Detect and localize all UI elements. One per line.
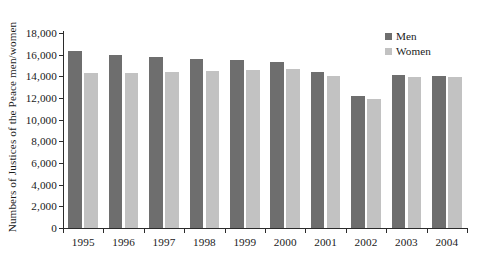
bar-women-2002 <box>367 99 381 228</box>
bar-men-1996 <box>109 55 123 228</box>
x-axis-tick-label-2002: 2002 <box>355 236 378 248</box>
legend-swatch-women-icon <box>385 48 392 55</box>
x-axis-tick-mark <box>305 228 306 233</box>
y-axis-tick-mark <box>59 98 63 99</box>
x-axis-tick-mark <box>265 228 266 233</box>
x-axis-tick-mark <box>103 228 104 233</box>
legend-swatch-men-icon <box>385 33 392 40</box>
bar-chart-figure: Numbers of Justices of the Peace men/wom… <box>0 0 485 275</box>
bar-women-1996 <box>125 73 139 228</box>
bar-women-2001 <box>327 76 341 228</box>
x-axis-tick-label-2001: 2001 <box>314 236 337 248</box>
bar-women-2004 <box>448 77 462 228</box>
bar-men-2001 <box>311 72 325 228</box>
legend-label-men: Men <box>396 29 417 43</box>
bar-women-2000 <box>286 69 300 228</box>
x-axis-tick-label-2003: 2003 <box>395 236 418 248</box>
bar-men-2004 <box>432 76 446 228</box>
legend-label-women: Women <box>396 44 431 58</box>
legend-item-women: Women <box>385 44 431 58</box>
y-axis-tick-label: 0 <box>51 222 57 234</box>
bar-men-1998 <box>190 59 204 228</box>
bar-men-2003 <box>392 75 406 228</box>
x-axis-tick-mark <box>467 228 468 233</box>
y-axis-tick-label: 4,000 <box>31 179 57 191</box>
y-axis-tick-label: 10,000 <box>26 114 57 126</box>
bar-women-2003 <box>408 77 422 228</box>
y-axis-tick-mark <box>59 76 63 77</box>
x-axis-tick-mark <box>386 228 387 233</box>
y-axis-tick-label: 6,000 <box>31 157 57 169</box>
y-axis-tick-label: 16,000 <box>26 49 57 61</box>
y-axis-tick-mark <box>59 185 63 186</box>
y-axis-tick-label: 14,000 <box>26 70 57 82</box>
x-axis-tick-label-2004: 2004 <box>435 236 458 248</box>
bar-men-1997 <box>149 57 163 228</box>
plot-area: 02,0004,0006,0008,00010,00012,00014,0001… <box>63 33 467 228</box>
y-axis-tick-label: 2,000 <box>31 200 57 212</box>
x-axis-tick-label-1999: 1999 <box>233 236 256 248</box>
chart-legend: Men Women <box>385 29 431 58</box>
y-axis-tick-mark <box>59 33 63 34</box>
bar-men-2002 <box>351 96 365 228</box>
y-axis-tick-mark <box>59 163 63 164</box>
y-axis-tick-label: 8,000 <box>31 135 57 147</box>
x-axis-tick-label-1998: 1998 <box>193 236 216 248</box>
y-axis-tick-mark <box>59 120 63 121</box>
y-axis-title: Numbers of Justices of the Peace men/wom… <box>4 2 20 252</box>
y-axis-tick-mark <box>59 141 63 142</box>
bar-women-1995 <box>84 73 98 228</box>
x-axis-tick-mark <box>144 228 145 233</box>
x-axis-tick-label-1995: 1995 <box>72 236 95 248</box>
bar-women-1997 <box>165 72 179 228</box>
x-axis-tick-mark <box>63 228 64 233</box>
bar-women-1998 <box>206 71 220 228</box>
y-axis-tick-label: 18,000 <box>26 27 57 39</box>
y-axis-tick-label: 12,000 <box>26 92 57 104</box>
y-axis-tick-mark <box>59 55 63 56</box>
bar-men-1999 <box>230 60 244 228</box>
x-axis-tick-mark <box>225 228 226 233</box>
x-axis-tick-label-1996: 1996 <box>112 236 135 248</box>
bar-women-1999 <box>246 70 260 228</box>
x-axis-tick-label-2000: 2000 <box>274 236 297 248</box>
x-axis-tick-mark <box>184 228 185 233</box>
y-axis-tick-mark <box>59 206 63 207</box>
bar-men-2000 <box>270 62 284 228</box>
x-axis-tick-label-1997: 1997 <box>153 236 176 248</box>
x-axis-tick-mark <box>427 228 428 233</box>
legend-item-men: Men <box>385 29 431 43</box>
x-axis-tick-mark <box>346 228 347 233</box>
bar-men-1995 <box>68 51 82 228</box>
